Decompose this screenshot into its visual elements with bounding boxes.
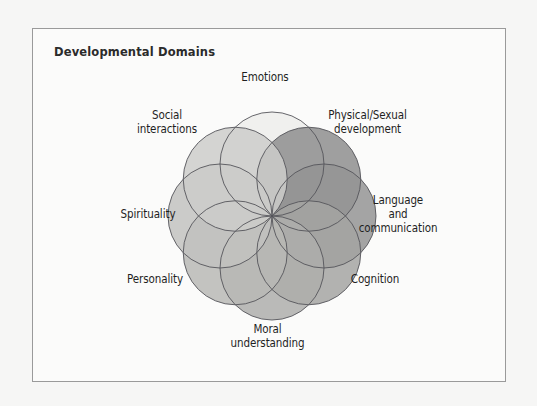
domain-label-language-and-communication: Language and communication bbox=[338, 193, 458, 235]
domain-label-emotions: Emotions bbox=[205, 70, 325, 84]
domain-label-personality: Personality bbox=[100, 272, 210, 286]
page-title: Developmental Domains bbox=[54, 45, 215, 59]
domain-label-physical-sexual-development: Physical/Sexual development bbox=[300, 108, 435, 136]
domain-label-spirituality: Spirituality bbox=[93, 207, 203, 221]
domain-label-social-interactions: Social interactions bbox=[112, 108, 222, 136]
domain-label-cognition: Cognition bbox=[325, 272, 425, 286]
domain-label-moral-understanding: Moral understanding bbox=[195, 322, 340, 350]
